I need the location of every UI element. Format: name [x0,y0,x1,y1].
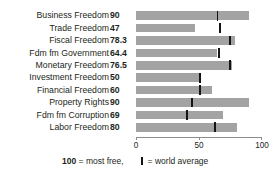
world-average-marker [217,11,219,21]
bar-fill [136,24,195,33]
axis-tick [261,137,262,140]
chart-row: Business Freedom90 [0,10,279,22]
bar-fill [136,49,217,58]
bar-track [136,49,262,58]
chart-row: Financial Freedom60 [0,84,279,96]
economic-freedoms-bar-chart: BRAZIL'S 2008 KEY ECONOMIC FREEDOMS Busi… [0,0,279,178]
world-average-marker [229,60,231,70]
world-average-marker [219,23,221,33]
chart-legend: 100 = most free, = world average [62,156,208,167]
chart-row: Labor Freedom80 [0,122,279,134]
bar-track [136,98,262,107]
legend-world-average-text: = world average [148,156,209,166]
row-value: 50 [110,72,132,83]
chart-row: Property Rights90 [0,97,279,109]
bar-fill [136,61,232,70]
bar-track [136,123,262,132]
bar-track [136,111,262,120]
bar-fill [136,73,199,82]
axis-tick-label: 100 [255,141,269,150]
chart-row: Trade Freedom47 [0,22,279,34]
axis-tick-label: 0 [134,141,139,150]
axis-tick [199,137,200,140]
axis-tick-label: 50 [194,141,203,150]
legend-most-free-value: 100 [62,156,76,166]
row-value: 47 [110,23,132,34]
row-label: Labor Freedom [50,122,109,133]
chart-row: Fiscal Freedom78.3 [0,35,279,47]
bar-track [136,36,262,45]
row-value: 64.4 [110,48,132,59]
x-axis: 050100 [136,137,262,138]
bar-track [136,11,262,20]
world-average-marker [218,48,220,58]
world-average-marker [199,85,201,95]
row-value: 90 [110,97,132,108]
row-label: Fdm fm Corruption [37,110,109,121]
row-value: 76.5 [110,60,132,71]
row-value: 90 [110,10,132,21]
row-value: 60 [110,85,132,96]
chart-row: Monetary Freedom76.5 [0,60,279,72]
bar-fill [136,11,249,20]
world-average-marker [186,110,188,120]
row-value: 78.3 [110,35,132,46]
bar-track [136,61,262,70]
bar-fill [136,111,223,120]
world-average-marker [191,98,193,108]
chart-rows: Business Freedom90Trade Freedom47Fiscal … [0,10,279,134]
row-label: Business Freedom [37,10,109,21]
axis-tick [136,137,137,140]
row-label: Property Rights [49,97,109,108]
row-label: Trade Freedom [49,23,109,34]
bar-track [136,86,262,95]
world-average-marker [214,122,216,132]
row-label: Investment Freedom [29,72,109,83]
world-average-marker [199,73,201,83]
row-value: 69 [110,110,132,121]
world-average-marker [229,36,231,46]
bar-fill [136,36,235,45]
chart-row: Fdm fm Government64.4 [0,47,279,59]
row-label: Financial Freedom [37,85,109,96]
row-label: Fiscal Freedom [49,35,109,46]
row-label: Fdm fm Government [29,48,109,59]
world-average-tick-icon [141,157,143,166]
bar-track [136,24,262,33]
bar-fill [136,123,237,132]
bar-track [136,73,262,82]
legend-most-free-text: = most free, [79,156,124,166]
row-label: Monetary Freedom [36,60,109,71]
chart-row: Investment Freedom50 [0,72,279,84]
chart-row: Fdm fm Corruption69 [0,109,279,121]
row-value: 80 [110,122,132,133]
